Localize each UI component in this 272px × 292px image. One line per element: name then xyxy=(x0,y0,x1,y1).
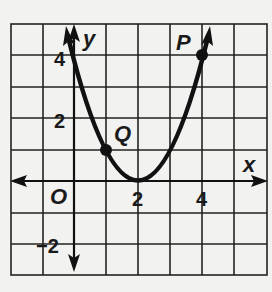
y-tick-label-neg2: −2 xyxy=(36,235,59,257)
x-tick-label-4: 4 xyxy=(196,188,208,210)
y-tick-label-4: 4 xyxy=(54,48,66,70)
point-p-marker xyxy=(196,49,208,61)
point-p-label: P xyxy=(176,30,191,55)
coordinate-plane: y x O 4 2 −2 2 4 P Q xyxy=(0,0,272,292)
x-axis-label: x xyxy=(242,152,256,177)
y-axis-label: y xyxy=(82,26,97,51)
point-q-label: Q xyxy=(114,121,131,146)
origin-label: O xyxy=(50,184,67,209)
point-q-marker xyxy=(100,144,112,156)
y-tick-label-2: 2 xyxy=(54,110,65,132)
x-tick-label-2: 2 xyxy=(132,188,143,210)
